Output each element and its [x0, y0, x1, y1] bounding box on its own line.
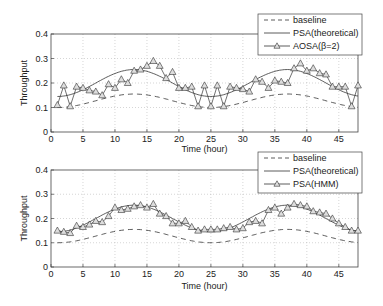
x-tick-label: 30: [238, 134, 248, 144]
legend-third-series: AOSA(β=2): [293, 41, 339, 51]
y-axis-label: Throughput: [19, 59, 29, 106]
triangle-marker-icon: [207, 226, 214, 232]
triangle-marker-icon: [144, 62, 151, 68]
triangle-marker-icon: [207, 103, 214, 109]
x-tick-label: 25: [206, 134, 216, 144]
x-tick-label: 35: [270, 269, 280, 279]
x-axis-label: Time (hour): [181, 144, 227, 154]
y-tick-label: 0.2: [35, 78, 48, 88]
x-tick-label: 5: [80, 269, 85, 279]
triangle-marker-icon: [201, 82, 208, 88]
triangle-marker-icon: [118, 76, 125, 82]
triangle-marker-icon: [342, 223, 349, 229]
triangle-marker-icon: [195, 103, 202, 109]
x-tick-label: 20: [174, 134, 184, 144]
triangle-marker-icon: [150, 200, 157, 206]
x-axis-label: Time (hour): [181, 281, 227, 291]
y-tick-label: 0.4: [35, 165, 48, 175]
x-tick-label: 25: [206, 269, 216, 279]
triangle-marker-icon: [259, 78, 266, 84]
triangle-marker-icon: [86, 221, 93, 227]
triangle-marker-icon: [73, 83, 80, 89]
triangle-marker-icon: [271, 204, 278, 210]
x-tick-label: 15: [142, 269, 152, 279]
triangle-marker-icon: [355, 82, 362, 88]
y-tick-label: 0: [43, 127, 48, 137]
triangle-marker-icon: [227, 83, 234, 89]
triangle-marker-icon: [348, 103, 355, 109]
x-tick-label: 0: [48, 134, 53, 144]
triangle-marker-icon: [99, 92, 106, 98]
x-tick-label: 20: [174, 269, 184, 279]
triangle-marker-icon: [67, 103, 74, 109]
triangle-marker-icon: [310, 65, 317, 71]
legend-third-series: PSA(HMM): [293, 179, 339, 189]
legend-psa-theoretical: PSA(theoretical): [293, 28, 359, 38]
triangle-marker-icon: [316, 70, 323, 76]
top-plot: 05101520253035404500.10.20.30.4Time (hou…: [19, 14, 362, 154]
triangle-marker-icon: [137, 66, 144, 72]
triangle-marker-icon: [182, 217, 189, 223]
triangle-marker-icon: [227, 223, 234, 229]
triangle-marker-icon: [188, 83, 195, 89]
legend-baseline: baseline: [293, 153, 327, 163]
triangle-marker-icon: [291, 65, 298, 71]
y-tick-label: 0.2: [35, 214, 48, 224]
x-tick-label: 10: [110, 269, 120, 279]
x-tick-label: 40: [302, 269, 312, 279]
triangle-marker-icon: [73, 222, 80, 228]
triangle-marker-icon: [54, 227, 61, 233]
triangle-marker-icon: [342, 83, 349, 89]
y-tick-label: 0.1: [35, 238, 48, 248]
triangle-marker-icon: [291, 200, 298, 206]
x-tick-label: 45: [334, 134, 344, 144]
y-tick-label: 0: [43, 262, 48, 272]
x-tick-label: 5: [80, 134, 85, 144]
triangle-marker-icon: [335, 220, 342, 226]
triangle-marker-icon: [137, 202, 144, 208]
triangle-marker-icon: [220, 103, 227, 109]
y-tick-label: 0.3: [35, 189, 48, 199]
triangle-marker-icon: [169, 68, 176, 74]
triangle-marker-icon: [105, 81, 112, 87]
triangle-marker-icon: [54, 101, 61, 107]
triangle-marker-icon: [112, 204, 119, 210]
x-tick-label: 10: [110, 134, 120, 144]
bottom-plot: 05101520253035404500.10.20.30.4Time (hou…: [19, 152, 362, 291]
legend-baseline: baseline: [293, 15, 327, 25]
x-tick-label: 35: [270, 134, 280, 144]
triangle-marker-icon: [252, 76, 259, 82]
triangle-marker-icon: [297, 60, 304, 66]
y-tick-label: 0.4: [35, 29, 48, 39]
triangle-marker-icon: [355, 227, 362, 233]
y-tick-label: 0.3: [35, 54, 48, 64]
x-tick-label: 15: [142, 134, 152, 144]
triangle-marker-icon: [259, 220, 266, 226]
triangle-marker-icon: [329, 83, 336, 89]
triangle-marker-icon: [329, 215, 336, 221]
triangle-marker-icon: [271, 77, 278, 83]
x-tick-label: 45: [334, 269, 344, 279]
triangle-marker-icon: [335, 83, 342, 89]
x-tick-label: 30: [238, 269, 248, 279]
triangle-marker-icon: [124, 79, 131, 85]
triangle-marker-icon: [201, 226, 208, 232]
figure: 05101520253035404500.10.20.30.4Time (hou…: [0, 0, 383, 306]
x-tick-label: 40: [302, 134, 312, 144]
triangle-marker-icon: [246, 88, 253, 94]
legend-psa-theoretical: PSA(theoretical): [293, 166, 359, 176]
triangle-marker-icon: [348, 227, 355, 233]
x-tick-label: 0: [48, 269, 53, 279]
y-axis-label: Throughput: [19, 195, 29, 242]
triangle-marker-icon: [156, 62, 163, 68]
y-tick-label: 0.1: [35, 103, 48, 113]
